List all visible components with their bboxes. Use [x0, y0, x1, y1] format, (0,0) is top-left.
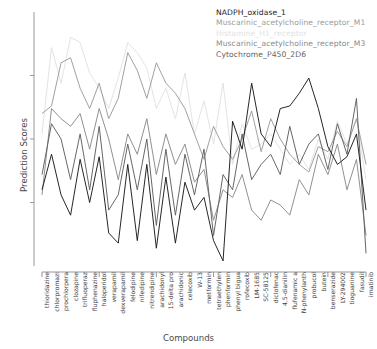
x-tick-label-27: N-phenylanth	[301, 272, 307, 313]
x-tick-label-30: benserazide	[330, 272, 336, 309]
x-tick-label-22: LM-1685	[254, 272, 260, 298]
x-tick-label-33: fasudil	[359, 272, 365, 292]
x-tick-label-20: phenyl bigua	[235, 272, 241, 312]
x-tick-label-3: clozapine	[73, 272, 79, 301]
x-tick-label-1: chlorpromazi	[54, 272, 60, 312]
x-tick-label-7: verapamil	[111, 272, 117, 303]
x-tick-label-11: nitrendipine	[149, 272, 155, 309]
x-tick-label-12: arachidonyl	[159, 272, 165, 308]
x-tick-label-9: felodipine	[130, 272, 136, 302]
x-tick-label-2: prochlorpera	[63, 272, 69, 311]
x-tick-label-21: rofecoxib	[244, 272, 250, 300]
x-tick-label-17: metformin	[206, 272, 212, 304]
x-tick-label-0: thioridazine	[44, 272, 50, 308]
x-tick-label-15: celecoxib	[187, 272, 193, 301]
chart-figure: NADPH_oxidase_1Muscarinic_acetylcholine_…	[0, 0, 377, 349]
x-tick-label-23: SC-58125	[263, 272, 269, 302]
x-tick-label-19: phenformin	[225, 272, 231, 307]
x-tick-label-31: LY-294002	[340, 272, 346, 303]
x-tick-label-6: haloperidol	[101, 272, 107, 306]
series-line-4	[42, 98, 366, 253]
x-tick-label-4: trifluoperaz	[82, 272, 88, 307]
x-tick-label-34: imatinib	[368, 272, 374, 297]
x-tick-label-24: diclofenac	[273, 272, 279, 303]
x-tick-label-14: arachidonic	[178, 272, 184, 307]
x-tick-label-28: probucol	[311, 272, 317, 298]
x-tick-label-5: fluphenazine	[92, 272, 98, 311]
x-tick-label-13: 15-delta pro	[168, 272, 174, 309]
x-tick-label-10: nifedipine	[139, 272, 145, 302]
x-tick-label-18: tetraethylen	[216, 272, 222, 310]
x-tick-label-29: butein	[321, 272, 327, 291]
x-tick-label-16: W-13	[197, 272, 203, 288]
plot-area	[28, 8, 370, 266]
series-line-3	[42, 109, 366, 236]
x-tick-label-26: flufenamic a	[292, 272, 298, 310]
x-axis-tick-labels: thioridazinechlorpromaziprochlorperacloz…	[28, 272, 370, 330]
x-tick-label-25: 4,5-dianilin	[282, 272, 288, 306]
series-line-1	[42, 53, 366, 172]
chart-svg	[28, 8, 370, 280]
x-tick-label-8: dexverapamil	[120, 272, 126, 314]
x-tick-label-32: tioguanine	[349, 272, 355, 304]
x-axis-label: Compounds	[0, 333, 377, 343]
